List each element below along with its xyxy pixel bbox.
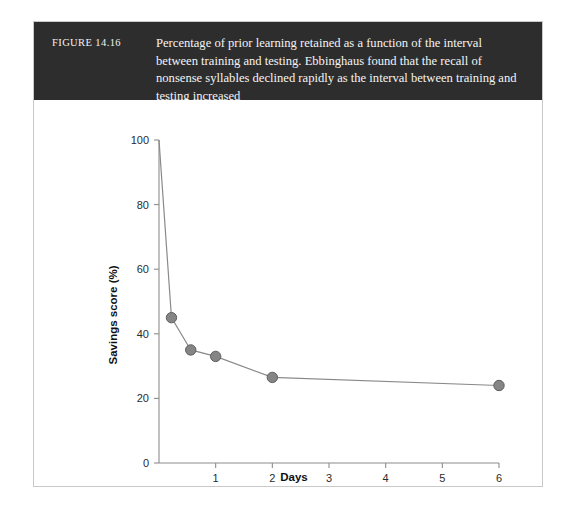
savings-score-line-chart: 020406080100 123456 Savings score (%) Da… bbox=[34, 100, 542, 486]
y-tick-label: 40 bbox=[137, 328, 149, 340]
caption-banner: FIGURE 14.16 Percentage of prior learnin… bbox=[34, 22, 542, 100]
y-tick-label: 100 bbox=[131, 134, 149, 146]
y-tick-label: 20 bbox=[137, 392, 149, 404]
figure-caption: Percentage of prior learning retained as… bbox=[156, 22, 542, 105]
x-axis-title: Days bbox=[280, 471, 308, 483]
data-point-marker bbox=[166, 312, 176, 322]
x-tick-label: 4 bbox=[383, 472, 389, 484]
x-tick-label: 2 bbox=[269, 472, 275, 484]
x-axis: 123456 bbox=[159, 463, 502, 484]
data-point-marker bbox=[267, 372, 277, 382]
y-axis: 020406080100 bbox=[131, 134, 159, 469]
x-tick-label: 3 bbox=[326, 472, 332, 484]
data-series bbox=[159, 140, 504, 391]
figure-card: FIGURE 14.16 Percentage of prior learnin… bbox=[33, 21, 543, 487]
x-tick-label: 6 bbox=[496, 472, 502, 484]
x-tick-label: 5 bbox=[439, 472, 445, 484]
data-point-marker bbox=[186, 345, 196, 355]
y-tick-label: 60 bbox=[137, 263, 149, 275]
y-tick-label: 80 bbox=[137, 199, 149, 211]
figure-number-label: FIGURE 14.16 bbox=[34, 22, 156, 48]
data-point-marker bbox=[494, 380, 504, 390]
chart-plot-area: 020406080100 123456 Savings score (%) Da… bbox=[34, 100, 542, 486]
data-point-marker bbox=[210, 351, 220, 361]
y-axis-title: Savings score (%) bbox=[107, 265, 119, 364]
x-tick-label: 1 bbox=[213, 472, 219, 484]
y-tick-label: 0 bbox=[143, 457, 149, 469]
